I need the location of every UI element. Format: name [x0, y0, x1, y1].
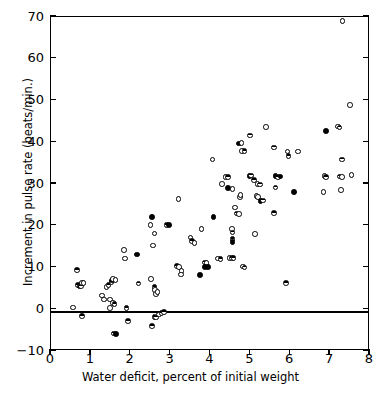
- x-axis-title: Water deficit, percent of initial weight: [0, 370, 381, 384]
- data-point-open: [347, 102, 353, 108]
- data-point-half: [125, 318, 131, 324]
- data-point-open: [148, 222, 154, 228]
- data-point-open: [349, 172, 355, 178]
- data-point-open: [252, 231, 258, 237]
- x-tick-label: 8: [354, 352, 381, 365]
- data-point-filled: [197, 272, 203, 278]
- data-point-half: [161, 309, 167, 315]
- data-point-half: [257, 182, 263, 188]
- data-point-open: [263, 124, 269, 130]
- data-point-open: [199, 226, 205, 232]
- data-point-half: [271, 145, 277, 151]
- data-point-filled: [291, 189, 297, 195]
- data-point-half: [323, 174, 329, 180]
- y-axis-title: Increment in pulse rate (beats/min.): [21, 42, 35, 322]
- x-tick-label: 7: [314, 352, 344, 365]
- x-tick-label: 4: [195, 352, 225, 365]
- data-point-open: [339, 174, 345, 180]
- data-point-half: [339, 157, 345, 163]
- data-point-half: [260, 198, 266, 204]
- data-point-half: [74, 267, 80, 273]
- x-tick-label: 5: [234, 352, 264, 365]
- data-point-filled: [166, 222, 172, 228]
- data-point-open: [236, 211, 242, 217]
- data-point-open: [81, 280, 87, 286]
- data-point-filled: [323, 128, 329, 134]
- data-point-open: [122, 256, 128, 262]
- y-axis-tick-labels: −10010203040506070: [0, 0, 381, 395]
- data-point-open: [239, 140, 245, 146]
- data-point-open: [70, 305, 76, 311]
- data-point-half: [149, 323, 155, 329]
- data-point-open: [121, 247, 127, 253]
- data-point-half: [283, 280, 289, 286]
- x-tick-label: 0: [35, 352, 65, 365]
- data-point-filled: [205, 264, 211, 270]
- data-point-filled: [230, 239, 236, 245]
- x-tick-label: 3: [155, 352, 185, 365]
- data-point-open: [192, 240, 198, 246]
- data-point-open: [178, 272, 184, 278]
- scatter-plot-figure: −10010203040506070 012345678 Water defic…: [0, 0, 381, 395]
- x-tick-label: 1: [75, 352, 105, 365]
- data-point-half: [79, 313, 85, 319]
- data-point-half: [231, 255, 237, 261]
- data-point-filled: [134, 252, 140, 258]
- x-tick-label: 2: [115, 352, 145, 365]
- data-point-open: [148, 276, 154, 282]
- data-point-half: [225, 174, 231, 180]
- y-tick-label: 70: [4, 10, 44, 23]
- data-point-open: [321, 189, 327, 195]
- data-point-half: [247, 133, 253, 139]
- data-point-open: [150, 243, 156, 249]
- data-point-filled: [113, 331, 119, 337]
- data-point-open: [338, 187, 344, 193]
- data-point-open: [230, 186, 236, 192]
- x-tick-label: 6: [274, 352, 304, 365]
- data-point-half: [271, 210, 277, 216]
- data-point-filled: [149, 214, 155, 220]
